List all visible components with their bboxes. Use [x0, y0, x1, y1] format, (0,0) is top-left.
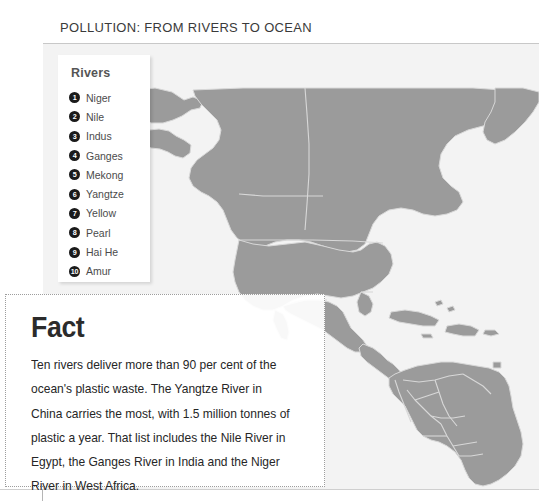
numbered-marker-icon: 9 — [69, 247, 80, 258]
list-item[interactable]: 2 Nile — [69, 107, 146, 126]
list-item[interactable]: 7 Yellow — [69, 204, 146, 223]
list-item[interactable]: 5 Mekong — [69, 165, 146, 184]
list-item-label: Amur — [86, 265, 111, 277]
numbered-marker-icon: 7 — [69, 208, 80, 219]
list-item[interactable]: 10 Amur — [69, 262, 146, 281]
numbered-marker-icon: 1 — [69, 92, 80, 103]
list-item-label: Nile — [86, 111, 104, 123]
list-item-label: Yangtze — [86, 188, 124, 200]
list-item[interactable]: 1 Niger — [69, 88, 146, 107]
numbered-marker-icon: 8 — [69, 227, 80, 238]
numbered-marker-icon: 4 — [69, 150, 80, 161]
list-item-label: Mekong — [86, 169, 123, 181]
legend-list: 1 Niger 2 Nile 3 Indus 4 Ganges 5 Mekong… — [69, 88, 146, 281]
legend-heading: Rivers — [71, 66, 110, 80]
list-item[interactable]: 8 Pearl — [69, 223, 146, 242]
numbered-marker-icon: 2 — [69, 111, 80, 122]
list-item[interactable]: 3 Indus — [69, 127, 146, 146]
list-item[interactable]: 9 Hai He — [69, 242, 146, 261]
fact-body-text: Ten rivers deliver more than 90 per cent… — [31, 353, 296, 499]
numbered-marker-icon: 5 — [69, 169, 80, 180]
numbered-marker-icon: 3 — [69, 131, 80, 142]
list-item-label: Hai He — [86, 246, 118, 258]
list-item-label: Niger — [86, 92, 111, 104]
list-item-label: Indus — [86, 130, 112, 142]
fact-heading: Fact — [31, 313, 84, 342]
page-title: POLLUTION: FROM RIVERS TO OCEAN — [60, 20, 312, 35]
fact-callout-box: Fact Ten rivers deliver more than 90 per… — [5, 294, 325, 487]
list-item[interactable]: 4 Ganges — [69, 146, 146, 165]
rivers-legend[interactable]: Rivers 1 Niger 2 Nile 3 Indus 4 Ganges 5… — [58, 55, 150, 282]
numbered-marker-icon: 6 — [69, 189, 80, 200]
infographic-page: POLLUTION: FROM RIVERS TO OCEAN — [0, 0, 539, 501]
list-item-label: Pearl — [86, 227, 111, 239]
list-item[interactable]: 6 Yangtze — [69, 184, 146, 203]
numbered-marker-icon: 10 — [69, 266, 80, 277]
map-top-divider — [43, 43, 539, 44]
list-item-label: Ganges — [86, 150, 123, 162]
list-item-label: Yellow — [86, 207, 116, 219]
